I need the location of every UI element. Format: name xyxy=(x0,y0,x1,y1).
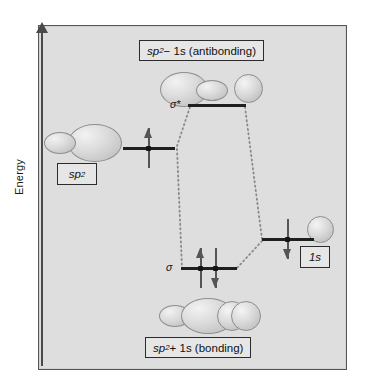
sp2-label-prefix: sp xyxy=(69,168,81,180)
electron-dot-1s xyxy=(285,237,290,242)
bonding-sphere-front xyxy=(231,301,261,331)
caption-antibonding-rest: − 1s (antibonding) xyxy=(164,45,256,57)
sp2-large-lobe xyxy=(68,124,122,162)
arrow-head xyxy=(283,249,291,259)
1s-label-text: 1s xyxy=(309,251,321,263)
electron-dot-sp2 xyxy=(146,146,151,151)
energy-axis-line xyxy=(41,30,43,366)
caption-bonding-prefix: sp xyxy=(153,342,165,354)
sp2-label-box: sp2 xyxy=(57,163,97,185)
arrow-head xyxy=(144,128,152,138)
caption-bonding: sp2 + 1s (bonding) xyxy=(145,337,251,358)
sp2-label-exponent: 2 xyxy=(81,170,85,179)
electron-dot-sigma-2 xyxy=(213,266,218,271)
arrow-head xyxy=(196,248,204,258)
level-label-sigma: σ xyxy=(166,261,172,273)
caption-bonding-rest: + 1s (bonding) xyxy=(170,342,244,354)
energy-axis-label: Energy xyxy=(13,142,25,212)
sp2-orbital-icon xyxy=(44,122,122,162)
figure-canvas: Energy sp2 − 1s (antibonding) sp2 + 1s (… xyxy=(0,0,367,389)
electron-dot-sigma-1 xyxy=(198,266,203,271)
arrow-head xyxy=(211,278,219,288)
bonding-orbital-icon xyxy=(159,297,263,333)
sp2-small-lobe xyxy=(44,132,76,154)
up-arrow-icon xyxy=(36,22,48,33)
caption-antibonding-prefix: sp xyxy=(147,45,159,57)
caption-antibonding: sp2 − 1s (antibonding) xyxy=(139,40,264,61)
antibonding-sphere xyxy=(234,74,263,103)
level-line-sigma xyxy=(181,267,237,270)
level-line-sigma-star xyxy=(188,104,246,107)
level-label-sigma-star: σ* xyxy=(170,98,180,110)
1s-label-box: 1s xyxy=(300,246,330,268)
antibonding-small-lobe xyxy=(196,80,228,101)
